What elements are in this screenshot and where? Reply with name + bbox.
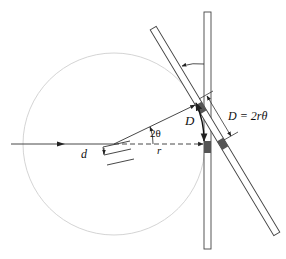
label-d: d: [81, 147, 88, 161]
incident-beam-arrow-icon: [57, 142, 65, 147]
diagram-canvas: d 2θ r D D = 2rθ: [0, 0, 286, 259]
spot-vertical: [204, 141, 211, 153]
label-formula: D = 2rθ: [227, 109, 267, 123]
rotation-arrow: [182, 64, 204, 66]
vertical-detector: [204, 12, 211, 249]
label-r: r: [157, 144, 162, 156]
tilted-detector: [150, 26, 280, 235]
crystal-planes: [103, 141, 134, 165]
label-two-theta: 2θ: [150, 127, 161, 139]
label-D: D: [184, 113, 195, 128]
